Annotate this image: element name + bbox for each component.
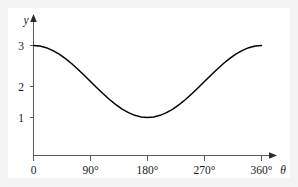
cosine-plot: 1 2 3 0 90° 180° 270° 360° y θ <box>8 8 290 178</box>
y-tick-label-3: 3 <box>18 40 24 52</box>
x-tick-label-0: 0 <box>31 164 37 176</box>
x-tick-label-180: 180° <box>137 164 159 176</box>
y-tick-label-1: 1 <box>18 112 24 124</box>
x-axis-label: θ <box>280 164 286 176</box>
y-axis-arrow-icon <box>30 14 37 22</box>
cosine-curve <box>34 46 262 118</box>
x-tick-label-90: 90° <box>82 164 99 176</box>
figure-panel: 1 2 3 0 90° 180° 270° 360° y θ <box>8 8 290 178</box>
x-axis-arrow-icon <box>269 152 277 159</box>
y-tick-label-2: 2 <box>18 81 24 93</box>
page-root: 1 2 3 0 90° 180° 270° 360° y θ <box>0 0 298 187</box>
x-tick-label-360: 360° <box>251 164 273 176</box>
x-tick-label-270: 270° <box>194 164 216 176</box>
y-axis-label: y <box>22 14 29 27</box>
